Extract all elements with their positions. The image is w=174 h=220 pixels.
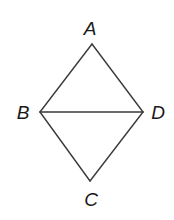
- vertex-label-a: A: [83, 18, 97, 39]
- edges: [40, 44, 143, 181]
- vertex-label-c: C: [84, 189, 98, 210]
- geometry-figure: A B D C: [0, 0, 174, 220]
- edge-ab: [40, 44, 92, 112]
- vertex-label-d: D: [151, 102, 165, 123]
- edge-dc: [90, 112, 143, 181]
- vertex-labels: A B D C: [17, 18, 165, 210]
- edge-bc: [40, 112, 90, 181]
- vertex-label-b: B: [17, 102, 30, 123]
- edge-ad: [92, 44, 143, 112]
